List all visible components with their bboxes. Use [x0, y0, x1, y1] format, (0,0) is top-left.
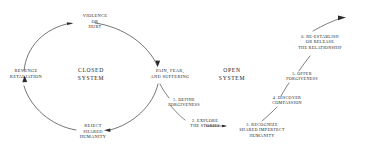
arc-pain-to-reject	[110, 84, 158, 130]
open-step-1: 1. DEFINE FORGIVENESS	[168, 97, 200, 108]
node-label-reject: REJECT SHARED HUMANITY	[80, 123, 107, 140]
node-label-violence: VIOLENCE OR HURT	[83, 13, 108, 30]
arrowhead-pain	[155, 61, 160, 68]
open-path-step6-to-end	[313, 18, 341, 31]
arrowhead-open-end	[338, 15, 346, 20]
open-step-3: 3. RECOGNIZE SHARED IMPERFECT HUMANITY	[239, 122, 285, 138]
open-step-4: 4. DISCOVER COMPASSION	[272, 95, 302, 106]
node-label-pain: PAIN, FEAR, AND SUFFERING	[150, 68, 189, 79]
closed-system-center-label: CLOSED SYSTEM	[78, 67, 104, 82]
open-step-2: 2. EXPLORE THE STORIES	[190, 118, 219, 129]
open-step-6: 6. RE-ESTABLISH OR RELEASE THE RELATIONS…	[298, 34, 342, 50]
open-arrow-step2-to-3	[222, 125, 227, 128]
open-step-5: 5. OFFER FORGIVENESS	[286, 71, 318, 82]
arc-reject-to-revenge	[24, 86, 76, 130]
open-path-step3-to-4	[262, 107, 277, 121]
open-system-center-label: OPEN SYSTEM	[219, 67, 245, 82]
arc-revenge-to-violence	[24, 23, 71, 71]
forgiveness-cycle-diagram: VIOLENCE OR HURT PAIN, FEAR, AND SUFFERI…	[0, 0, 367, 150]
open-path-step5-to-6	[299, 56, 310, 71]
node-label-revenge: REVENGE RETALIATION	[10, 68, 42, 79]
arrowhead-violence	[67, 22, 73, 25]
